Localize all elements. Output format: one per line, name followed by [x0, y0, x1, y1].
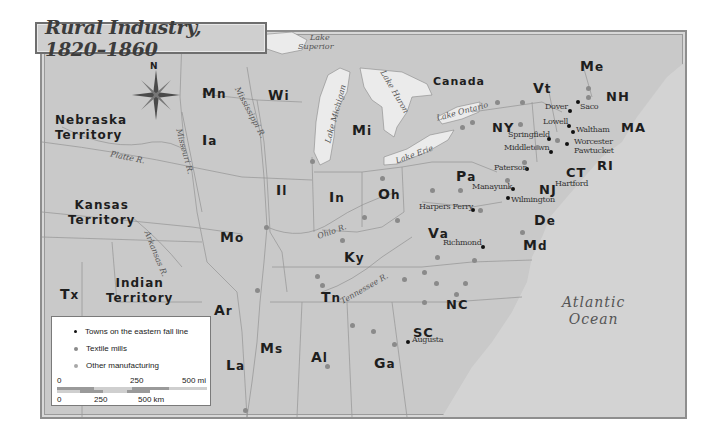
- town-saco: Saco: [580, 103, 598, 111]
- compass-rose-icon: [128, 62, 184, 124]
- state-mo: Mo: [220, 230, 244, 244]
- town-harpers-ferry: Harpers Ferry: [419, 203, 473, 211]
- scale-mi-start: 0: [57, 377, 61, 385]
- region-nebraska-territory: NebraskaTerritory: [55, 113, 127, 143]
- light-gray-dot-icon: [74, 364, 78, 368]
- region-canada: Canada: [433, 76, 485, 87]
- manufacturing-marker: [518, 122, 523, 127]
- scale-bar: [57, 387, 207, 393]
- water-atlantic-ocean: AtlanticOcean: [562, 294, 625, 328]
- gray-dot-icon: [74, 347, 78, 351]
- state-nc: NC: [446, 298, 468, 311]
- state-ia: Ia: [202, 133, 217, 147]
- region-indian-territory: IndianTerritory: [106, 276, 173, 306]
- manufacturing-marker: [460, 125, 465, 130]
- manufacturing-marker: [495, 100, 500, 105]
- state-ri: RI: [597, 159, 614, 172]
- state-ct: CT: [566, 166, 586, 179]
- state-la: La: [226, 358, 245, 372]
- manufacturing-marker: [255, 288, 260, 293]
- manufacturing-marker: [325, 364, 330, 369]
- state-md: Md: [523, 238, 548, 252]
- town-augusta: Augusta: [412, 336, 443, 344]
- manufacturing-marker: [243, 408, 248, 413]
- manufacturing-marker: [505, 178, 510, 183]
- state-oh: Oh: [378, 187, 400, 201]
- manufacturing-marker: [402, 277, 407, 282]
- manufacturing-marker: [458, 188, 463, 193]
- map-legend: Towns on the eastern fall line Textile m…: [51, 316, 211, 406]
- textile-mill-marker: [371, 329, 376, 334]
- state-tx: Tx: [60, 287, 79, 301]
- town-dover: Dover: [545, 103, 568, 111]
- state-ga: Ga: [374, 356, 396, 370]
- manufacturing-marker: [472, 258, 477, 263]
- town-lowell: Lowell: [543, 118, 568, 126]
- state-mn: Mn: [202, 86, 226, 100]
- state-vt: Vt: [533, 81, 552, 95]
- state-ar: Ar: [214, 303, 233, 317]
- manufacturing-marker: [434, 281, 439, 286]
- state-il: Il: [276, 183, 287, 197]
- manufacturing-marker: [422, 270, 427, 275]
- manufacturing-marker: [315, 274, 320, 279]
- town-waltham: Waltham: [576, 126, 609, 134]
- scale-km-mid: 250: [94, 396, 107, 404]
- manufacturing-marker: [422, 300, 427, 305]
- black-dot-icon: [74, 330, 77, 333]
- manufacturing-marker: [520, 230, 525, 235]
- manufacturing-marker: [320, 283, 325, 288]
- manufacturing-marker: [478, 208, 483, 213]
- scale-km-start: 0: [57, 396, 61, 404]
- scale-mi-mid: 250: [130, 377, 143, 385]
- textile-mill-marker: [392, 342, 397, 347]
- state-ky: Ky: [344, 250, 365, 264]
- region-kansas-territory: KansasTerritory: [68, 198, 135, 228]
- manufacturing-marker: [430, 188, 435, 193]
- compass-north-label: N: [150, 62, 159, 71]
- state-mi: Mi: [352, 123, 372, 137]
- manufacturing-marker: [520, 100, 525, 105]
- town-pawtucket: Pawtucket: [574, 147, 614, 155]
- town-springfield: Springfield: [508, 131, 550, 139]
- state-wi: Wi: [268, 88, 290, 102]
- manufacturing-marker: [264, 225, 269, 230]
- state-de: De: [534, 213, 556, 227]
- legend-item-other-manufacturing: Other manufacturing: [52, 361, 159, 370]
- manufacturing-marker: [395, 218, 400, 223]
- state-me: Me: [580, 59, 604, 73]
- map-title-box: Rural Industry, 1820–1860: [35, 22, 267, 54]
- textile-mill-marker: [586, 95, 591, 100]
- state-nh: NH: [606, 90, 630, 103]
- scale-mi-end: 500 mi: [182, 377, 206, 385]
- manufacturing-marker: [380, 176, 385, 181]
- fall-line-town-marker: [506, 196, 510, 200]
- state-ma: MA: [621, 121, 646, 134]
- manufacturing-marker: [340, 238, 345, 243]
- fall-line-town-marker: [565, 142, 569, 146]
- fall-line-town-marker: [568, 109, 572, 113]
- town-hartford: Hartford: [555, 180, 588, 188]
- water-lake-superior-2: Superior: [298, 43, 334, 51]
- legend-item-fall-line-towns: Towns on the eastern fall line: [52, 327, 188, 336]
- water-lake-superior-1: Lake: [310, 34, 330, 42]
- town-paterson: Paterson: [494, 164, 527, 172]
- fall-line-town-marker: [406, 340, 410, 344]
- fall-line-town-marker: [571, 130, 575, 134]
- town-manayunk: Manayunk: [472, 183, 512, 191]
- town-wilmington: Wilmington: [511, 196, 555, 204]
- scale-km-end: 500 km: [138, 396, 164, 404]
- state-ms: Ms: [260, 341, 283, 355]
- town-richmond: Richmond: [443, 239, 482, 247]
- textile-mill-marker: [535, 145, 540, 150]
- fall-line-town-marker: [549, 150, 553, 154]
- manufacturing-marker: [362, 215, 367, 220]
- state-pa: Pa: [456, 169, 476, 183]
- textile-mill-marker: [586, 86, 591, 91]
- legend-item-textile-mills: Textile mills: [52, 344, 127, 353]
- textile-mill-marker: [350, 323, 355, 328]
- town-worcester: Worcester: [574, 138, 613, 146]
- state-al: Al: [311, 350, 328, 364]
- manufacturing-marker: [454, 292, 459, 297]
- manufacturing-marker: [522, 160, 527, 165]
